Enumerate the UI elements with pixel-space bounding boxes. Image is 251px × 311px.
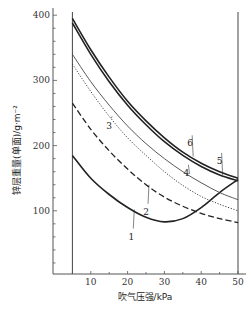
curve-4 [72, 54, 238, 199]
curve-label-5: 5 [217, 156, 223, 166]
curve-label-2: 2 [143, 207, 149, 217]
y-tick-label: 300 [33, 75, 50, 85]
curve-3 [72, 64, 238, 211]
curve-5 [72, 23, 238, 181]
y-tick-label: 200 [33, 141, 50, 151]
curve-label-1: 1 [128, 232, 134, 242]
curve-6 [72, 18, 238, 178]
x-axis-title: 吹气压强/kPa [118, 291, 173, 302]
curve-label-3: 3 [106, 121, 112, 131]
curve-2 [72, 103, 238, 222]
x-tick-label: 20 [122, 277, 134, 287]
x-tick-label: 10 [85, 277, 97, 287]
chart: 1002003004001020304050 123456 吹气压强/kPa 锌… [0, 0, 251, 311]
curve-labels: 123456 [106, 116, 222, 241]
curve-label-6: 6 [187, 138, 193, 148]
x-tick-label: 50 [232, 277, 244, 287]
axes: 1002003004001020304050 [33, 8, 246, 287]
curve-1 [72, 155, 238, 222]
x-tick-label: 40 [195, 277, 207, 287]
curves [72, 18, 238, 222]
y-axis-title: 锌层重量(单面)/g·m⁻² [11, 105, 22, 195]
curve-label-4: 4 [184, 168, 190, 178]
y-tick-label: 100 [33, 206, 50, 216]
y-tick-label: 400 [33, 10, 50, 20]
x-tick-label: 30 [159, 277, 171, 287]
